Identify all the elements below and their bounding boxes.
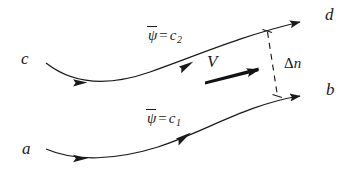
figure-canvas — [0, 0, 357, 171]
psi-bar-symbol-upper: ψ — [148, 27, 157, 43]
label-point-a: a — [22, 140, 31, 157]
velocity-vector-arrowline — [205, 70, 259, 83]
streamline-figure: c a d b V Δn ψ=c2 ψ=c1 — [0, 0, 357, 171]
normal-spacing-tick-bottom — [273, 95, 283, 98]
n-symbol: n — [294, 55, 302, 71]
lower-streamline — [46, 96, 300, 162]
label-point-c: c — [21, 50, 29, 67]
label-velocity: V — [207, 53, 217, 70]
psi-bar-symbol-lower: ψ — [147, 110, 156, 126]
upper-streamline-arrow-2 — [179, 61, 194, 73]
equals-sign-lower: = — [156, 110, 168, 126]
label-streamfunction-lower: ψ=c1 — [147, 110, 181, 128]
label-point-b: b — [326, 81, 335, 98]
delta-symbol: Δ — [284, 55, 294, 71]
constant-subscript-lower: 1 — [175, 117, 181, 128]
constant-subscript-upper: 2 — [176, 34, 182, 45]
lower-streamline-arrow-1 — [73, 155, 88, 162]
equals-sign-upper: = — [157, 27, 169, 43]
normal-spacing-line — [263, 30, 283, 98]
label-point-d: d — [325, 6, 334, 23]
label-streamfunction-upper: ψ=c2 — [148, 27, 182, 45]
label-delta-n: Δn — [284, 56, 301, 71]
lower-streamline-arrow-2 — [176, 133, 191, 146]
normal-spacing-dashed — [268, 32, 278, 96]
